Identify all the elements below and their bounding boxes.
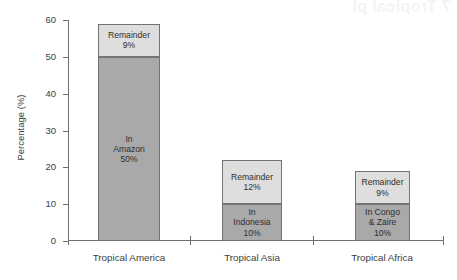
y-axis-tick-label: 30 xyxy=(30,126,56,136)
bar-segment-label-line: In xyxy=(125,134,132,144)
y-axis-tick-label: 40 xyxy=(30,89,56,99)
bar-segment-label-line: Amazon xyxy=(113,144,145,154)
category-label-tropical-africa: Tropical Africa xyxy=(351,252,413,263)
bar-segment-label-line: Remainder xyxy=(361,177,403,187)
bar-segment-remainder: Remainder9% xyxy=(98,24,160,57)
bar-segment-in-indonesia: InIndonesia10% xyxy=(222,204,282,241)
x-axis-tick xyxy=(68,236,69,245)
bar-segment-label-line: 12% xyxy=(243,182,260,192)
bar-segment-label-line: Indonesia xyxy=(233,217,270,227)
y-axis-tick-label: 10 xyxy=(30,199,56,209)
bar-segment-label-line: Remainder xyxy=(231,172,273,182)
bar-segment-label-line: 10% xyxy=(243,228,260,238)
y-axis-title: Percentage (%) xyxy=(15,68,26,188)
y-axis-tick xyxy=(63,204,69,205)
bar-segment-remainder: Remainder12% xyxy=(222,160,282,204)
y-axis-tick xyxy=(63,20,69,21)
bar-segment-in-amazon: InAmazon50% xyxy=(98,57,160,241)
stacked-bar: Remainder9%InAmazon50% xyxy=(98,24,160,241)
category-label-tropical-america: Tropical America xyxy=(93,252,166,263)
y-axis-tick-label: 0 xyxy=(30,236,56,246)
stacked-bar: Remainder12%InIndonesia10% xyxy=(222,160,282,241)
y-axis-tick xyxy=(63,167,69,168)
y-axis-tick-label: 60 xyxy=(30,15,56,25)
bar-segment-label-line: In Congo xyxy=(365,207,400,217)
bar-segment-label-line: In xyxy=(248,207,255,217)
bar-segment-label-line: & Zaire xyxy=(369,217,397,227)
x-axis-tick xyxy=(313,236,314,245)
y-axis-tick xyxy=(63,57,69,58)
y-axis-tick-label: 50 xyxy=(30,52,56,62)
y-axis-tick-label: 20 xyxy=(30,162,56,172)
plot-area: Percentage (%) 0102030405060 Remainder9%… xyxy=(0,0,457,280)
chart-figure: 7 Tropical pl Percentage (%) 01020304050… xyxy=(0,0,457,280)
bar-segment-label-line: 50% xyxy=(120,154,137,164)
bar-segment-label-line: Remainder xyxy=(108,30,150,40)
y-axis-tick xyxy=(63,94,69,95)
bar-segment-in-congo-zaire: In Congo& Zaire10% xyxy=(355,204,410,241)
bar-segment-label-line: 9% xyxy=(376,188,388,198)
bar-segment-remainder: Remainder9% xyxy=(355,171,410,204)
y-axis-tick xyxy=(63,131,69,132)
stacked-bar: Remainder9%In Congo& Zaire10% xyxy=(355,171,410,241)
x-axis-tick xyxy=(190,236,191,245)
bar-segment-label-line: 10% xyxy=(374,228,391,238)
category-label-tropical-asia: Tropical Asia xyxy=(224,252,280,263)
bar-segment-label-line: 9% xyxy=(123,40,135,50)
x-axis-tick xyxy=(443,236,444,245)
